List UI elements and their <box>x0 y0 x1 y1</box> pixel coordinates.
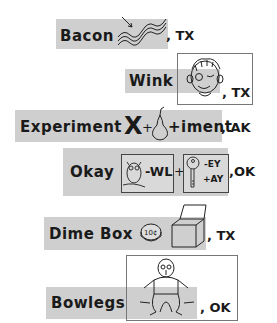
bacon-state: , TX <box>166 29 194 42</box>
okay-label: Okay <box>70 165 114 180</box>
pear-icon <box>150 103 170 141</box>
key-plus-ay: +AY <box>203 175 223 184</box>
bowlegged-man-icon <box>136 258 200 318</box>
experiment-label: Experiment <box>20 120 122 135</box>
key-icon <box>185 156 203 190</box>
dime-box-label: Dime Box <box>49 227 133 242</box>
owl-minus-wl: -WL <box>145 165 172 178</box>
wink-state: , TX <box>222 86 250 99</box>
okay-state: ,OK <box>229 165 255 178</box>
dime-box-state: , TX <box>207 229 235 242</box>
bowlegs-label: Bowlegs <box>51 296 125 311</box>
owl-icon <box>123 156 145 190</box>
bacon-label: Bacon <box>60 29 114 44</box>
bowlegs-state: , OK <box>200 301 231 314</box>
key-minus-ey: -EY <box>204 160 220 169</box>
box-icon <box>170 203 208 249</box>
bacon-icon <box>114 13 168 49</box>
svg-text:10¢: 10¢ <box>144 229 157 237</box>
experiment-state: , AK <box>221 121 251 134</box>
experiment-x: X <box>124 114 143 138</box>
wink-label: Wink <box>129 74 173 89</box>
dime-coin-icon: 10¢ <box>139 223 163 245</box>
